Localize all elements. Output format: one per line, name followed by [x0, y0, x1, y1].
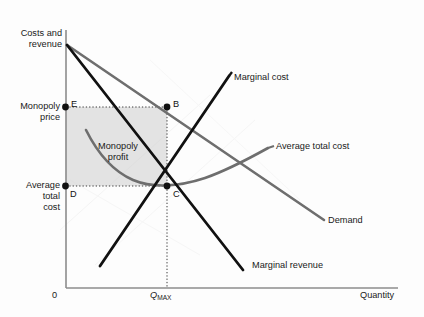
- average-total-cost-axis-label-line2: total: [0, 191, 60, 203]
- point-E: [62, 104, 69, 111]
- average-total-cost-axis-label-line1: Average: [0, 180, 60, 192]
- marginal-revenue-label: Marginal revenue: [252, 260, 323, 272]
- qmax-subscript: MAX: [157, 294, 171, 301]
- chart-canvas: [0, 0, 424, 317]
- qmax-axis-label: QMAX: [150, 290, 171, 300]
- point-C: [164, 183, 171, 190]
- x-axis-title: Quantity: [360, 290, 394, 302]
- marginal-cost-label: Marginal cost: [234, 72, 289, 84]
- point-B: [164, 104, 171, 111]
- average-total-cost-curve-label: Average total cost: [276, 141, 349, 153]
- point-label-C: C: [173, 189, 180, 199]
- average-total-cost-leader: [268, 146, 274, 148]
- origin-label: 0: [52, 290, 57, 300]
- monopoly-profit-label-line1: Monopoly: [88, 141, 148, 153]
- monopoly-profit-label-line2: profit: [88, 152, 148, 164]
- average-total-cost-axis-label-line3: cost: [0, 202, 60, 214]
- monopoly-profit-diagram: Costs and revenue Monopoly price Average…: [0, 0, 424, 317]
- monopoly-price-label-line1: Monopoly: [0, 101, 60, 113]
- point-label-D: D: [70, 189, 77, 199]
- demand-label: Demand: [328, 215, 363, 227]
- y-axis-title-line2: revenue: [2, 39, 62, 51]
- point-label-B: B: [173, 99, 179, 109]
- marginal-cost-leader: [229, 72, 232, 76]
- page-edge-artifact: [0, 76, 3, 86]
- y-axis-title-line1: Costs and: [2, 28, 62, 40]
- point-D: [62, 183, 69, 190]
- point-label-E: E: [71, 99, 77, 109]
- monopoly-price-label-line2: price: [0, 112, 60, 124]
